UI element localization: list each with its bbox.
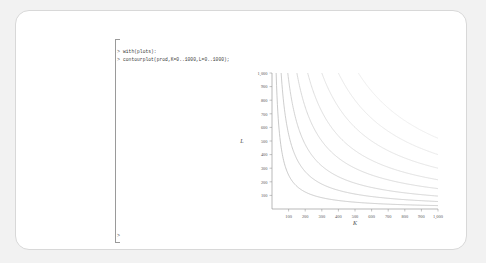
y-tick-label: 600 [261, 125, 268, 130]
plot-axes [272, 73, 438, 209]
y-axis-ticks: 1002003004005006007008009001,000 [258, 71, 272, 198]
y-tick-label: 400 [261, 152, 268, 157]
contour-curve [338, 73, 438, 155]
y-tick-label: 300 [261, 166, 268, 171]
document-card: > with(plots): > contourplot(prod,K=0..1… [15, 10, 467, 250]
x-tick-label: 600 [368, 214, 375, 219]
x-tick-label: 500 [352, 214, 359, 219]
contour-plot-output[interactable]: 1002003004005006007008009001,000 1002003… [232, 69, 444, 229]
x-tick-label: 300 [319, 214, 326, 219]
y-tick-label: 900 [261, 84, 268, 89]
y-tick-label: 700 [261, 112, 268, 117]
x-tick-label: 700 [385, 214, 392, 219]
y-tick-label: 100 [261, 193, 268, 198]
contour-curve [358, 73, 438, 138]
x-tick-label: 800 [402, 214, 409, 219]
input-prompt-trailing[interactable]: > [117, 233, 120, 239]
command-line-1[interactable]: with(plots): [123, 49, 157, 55]
contour-curve [297, 73, 438, 189]
input-prompt-2: > [117, 57, 120, 63]
x-tick-label: 900 [418, 214, 425, 219]
contour-curve [322, 73, 438, 168]
y-tick-label: 200 [261, 180, 268, 185]
y-tick-label: 1,000 [258, 71, 269, 77]
x-tick-label: 400 [335, 214, 342, 219]
execution-group-bracket[interactable] [115, 39, 116, 243]
x-tick-label: 200 [302, 214, 309, 219]
contour-curve-group [276, 73, 438, 206]
x-tick-label: 1,000 [433, 214, 444, 220]
command-line-2[interactable]: contourplot(prod,K=0..1000,L=0..1000); [123, 57, 230, 63]
contour-curve [276, 73, 438, 206]
x-tick-label: 100 [285, 214, 292, 219]
y-tick-label: 500 [261, 139, 268, 144]
contour-curve [281, 73, 438, 202]
y-axis-label: L [239, 138, 244, 144]
contour-plot-svg: 1002003004005006007008009001,000 1002003… [232, 69, 444, 229]
x-axis-ticks: 1002003004005006007008009001,000 [285, 209, 443, 220]
input-prompt-1: > [117, 49, 120, 55]
x-axis-label: K [352, 220, 358, 226]
y-tick-label: 800 [261, 98, 268, 103]
maple-worksheet-window: > with(plots): > contourplot(prod,K=0..1… [0, 0, 486, 263]
contour-curve [308, 73, 438, 180]
